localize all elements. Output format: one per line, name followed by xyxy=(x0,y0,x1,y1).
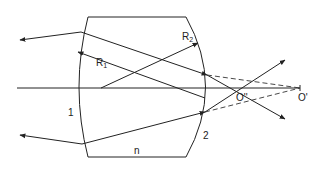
top-ray xyxy=(20,32,300,119)
label-surface-2: 2 xyxy=(203,130,209,141)
label-r2: R2 xyxy=(182,31,193,43)
label-index-n: n xyxy=(134,145,140,156)
label-o-double-prime: O'' xyxy=(236,92,248,103)
bottom-ray xyxy=(20,60,300,144)
thick-lens-diagram: R1 R2 1 2 n O'' O' xyxy=(0,0,324,172)
label-r1: R1 xyxy=(96,57,107,69)
label-surface-1: 1 xyxy=(68,107,74,118)
label-o-prime: O' xyxy=(298,92,308,103)
